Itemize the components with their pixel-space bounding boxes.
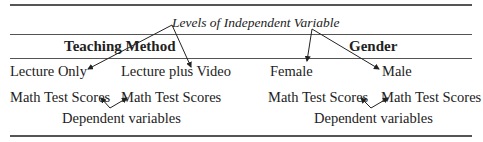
arrow-dep-right-1 (361, 98, 371, 108)
arrow-dep-right-2 (371, 98, 388, 108)
arrow-dep-left-2 (110, 98, 127, 108)
arrow-to-male (312, 29, 379, 69)
arrow-to-lecture-plus-video (172, 25, 191, 67)
arrow-dep-left-1 (101, 98, 110, 108)
arrow-to-female (307, 29, 312, 61)
arrow-to-lecture-only (88, 25, 172, 69)
arrows-layer (0, 0, 483, 142)
